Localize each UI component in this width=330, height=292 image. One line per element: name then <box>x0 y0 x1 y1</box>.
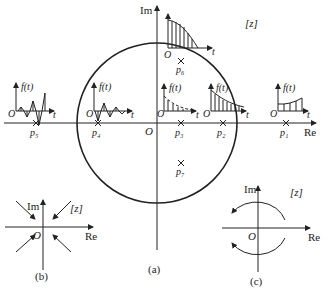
pole-label-p6: p₆ <box>176 65 184 75</box>
z-plane-label: [z] <box>245 18 258 29</box>
origin-label-p5: O <box>8 109 15 119</box>
ft-plot-p6 <box>168 14 212 48</box>
panel-c-z-label: [z] <box>290 187 303 198</box>
ft-label-p5: f(t) <box>21 82 33 92</box>
caption-b: (b) <box>35 271 48 282</box>
origin-label-p4: O <box>86 109 93 119</box>
origin-label-p1: O <box>270 109 277 119</box>
t-label-p4: t <box>131 110 134 120</box>
ft-label-p4: f(t) <box>99 82 111 92</box>
pole-label-p5: p₅ <box>30 128 38 138</box>
pole-label-p1: p₁ <box>280 128 288 138</box>
diagram-canvas <box>0 0 330 292</box>
panel-b-im-label: Im <box>27 201 39 212</box>
panel-b-origin: O <box>33 230 41 241</box>
origin-label-p3: O <box>157 109 164 119</box>
origin-label-p6: O <box>164 50 171 60</box>
ft-label-p3: f(t) <box>169 83 181 93</box>
pole-label-p7: p₇ <box>176 167 184 177</box>
re-axis-label: Re <box>304 127 316 138</box>
pole-label-p4: p₄ <box>92 128 100 138</box>
im-axis-label: Im <box>140 5 152 16</box>
panel-c-origin: O <box>248 231 256 242</box>
t-label-p6: t <box>212 47 215 57</box>
t-label-p5: t <box>53 110 56 120</box>
pole-label-p3: p₃ <box>175 128 183 138</box>
panel-b-z-label: [z] <box>70 203 83 214</box>
t-label-p1: t <box>307 110 310 120</box>
ft-label-p1: f(t) <box>283 83 295 93</box>
pole-label-p2: p₂ <box>217 128 225 138</box>
t-label-p2: t <box>246 110 249 120</box>
panel-c-im-label: Im <box>244 184 256 195</box>
panel-b-re-label: Re <box>85 231 97 242</box>
t-label-p3: t <box>196 110 199 120</box>
origin-label-p2: O <box>203 109 210 119</box>
origin-label: O <box>145 126 153 137</box>
panel-c-axes <box>222 186 310 272</box>
ft-label-p2: f(t) <box>216 83 228 93</box>
caption-c: (c) <box>250 276 262 287</box>
panel-c-re-label: Re <box>308 232 320 243</box>
caption-a: (a) <box>148 264 160 275</box>
